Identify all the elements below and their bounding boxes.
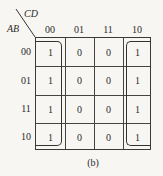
row-header-01: 01 — [19, 75, 33, 87]
col-header-10: 10 — [125, 24, 149, 36]
left-column-group-loop — [35, 41, 62, 146]
row-variable-label: AB — [5, 23, 21, 35]
row-header-11: 11 — [19, 103, 33, 115]
right-column-group-loop — [126, 41, 151, 146]
kmap-cell: 0 — [94, 104, 123, 116]
kmap-cell: 0 — [65, 47, 94, 59]
kmap-cell: 0 — [94, 132, 123, 144]
row-header-10: 10 — [19, 131, 33, 143]
kmap-cell: 0 — [94, 47, 123, 59]
col-header-00: 00 — [38, 24, 62, 36]
kmap-grid: 1 0 0 1 1 0 0 1 1 0 0 1 1 0 0 1 — [35, 37, 151, 150]
col-header-11: 11 — [96, 24, 120, 36]
figure-caption: (b) — [78, 157, 108, 169]
kmap-cell: 0 — [65, 104, 94, 116]
kmap-cell: 0 — [94, 75, 123, 87]
col-header-01: 01 — [67, 24, 91, 36]
kmap-cell: 0 — [65, 132, 94, 144]
row-header-00: 00 — [19, 46, 33, 58]
col-variable-label: CD — [23, 8, 39, 20]
kmap-cell: 0 — [65, 75, 94, 87]
